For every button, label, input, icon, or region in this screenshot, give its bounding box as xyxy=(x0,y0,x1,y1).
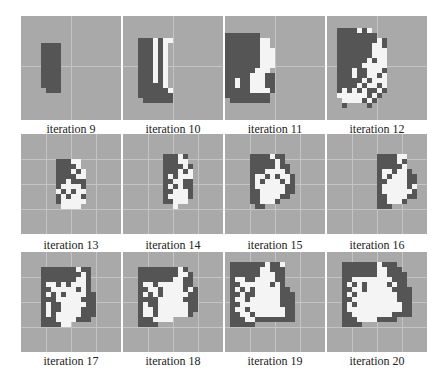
cell-grid xyxy=(123,252,223,352)
iteration-label: iteration 15 xyxy=(225,238,325,252)
iteration-label: iteration 17 xyxy=(21,354,121,368)
iteration-label: iteration 20 xyxy=(327,354,427,368)
iteration-panel xyxy=(123,16,223,120)
iteration-panel xyxy=(225,16,325,120)
iteration-label: iteration 13 xyxy=(21,238,121,252)
cell-grid xyxy=(327,18,427,118)
cell-grid xyxy=(123,134,223,234)
cell-grid xyxy=(225,134,325,234)
iteration-panel xyxy=(327,16,427,120)
iteration-panel xyxy=(225,134,325,234)
iteration-label: iteration 16 xyxy=(327,238,427,252)
cell-grid xyxy=(225,252,325,352)
iteration-label: iteration 14 xyxy=(123,238,223,252)
cell-grid xyxy=(21,252,121,352)
iteration-panel xyxy=(21,134,121,234)
iteration-panel xyxy=(327,252,427,352)
iteration-panel xyxy=(123,252,223,352)
iteration-panel xyxy=(21,16,121,120)
iteration-panel xyxy=(225,252,325,352)
cell-grid xyxy=(327,252,427,352)
cell-grid xyxy=(123,18,223,118)
iteration-grid-figure: iteration 9iteration 10iteration 11itera… xyxy=(0,0,448,379)
iteration-panel xyxy=(327,134,427,234)
iteration-panel xyxy=(21,252,121,352)
cell-grid xyxy=(21,18,121,118)
iteration-panel xyxy=(123,134,223,234)
cell-grid xyxy=(327,134,427,234)
cell-grid xyxy=(21,134,121,234)
iteration-label: iteration 19 xyxy=(225,354,325,368)
iteration-label: iteration 18 xyxy=(123,354,223,368)
cell-grid xyxy=(225,18,325,118)
